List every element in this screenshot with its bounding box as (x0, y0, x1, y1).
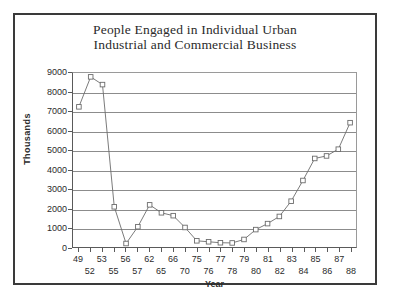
chart-title-line-1: People Engaged in Individual Urban (13, 22, 377, 37)
y-axis-tick-mark (68, 248, 72, 249)
x-axis-tick-label: 76 (197, 266, 221, 276)
data-point-marker (277, 214, 282, 219)
x-axis-tick-label: 81 (256, 254, 280, 264)
x-axis-tick-label: 57 (125, 266, 149, 276)
x-axis-tick-label: 86 (315, 266, 339, 276)
x-axis-tick-mark (173, 248, 174, 252)
chart-figure: People Engaged in Individual Urban Indus… (0, 0, 399, 305)
data-point-marker (159, 211, 164, 216)
x-axis-tick-mark (137, 248, 138, 252)
x-axis-tick-label: 78 (220, 266, 244, 276)
x-axis-tick-mark (90, 248, 91, 252)
x-axis-tick-mark (220, 248, 221, 252)
x-axis-tick-mark (161, 248, 162, 252)
x-axis-tick-mark (256, 248, 257, 252)
data-point-marker (242, 237, 247, 242)
x-axis-tick-label: 84 (292, 266, 316, 276)
data-point-marker (336, 147, 341, 152)
data-point-marker (218, 240, 223, 245)
x-axis-tick-label: 65 (149, 266, 173, 276)
y-axis-tick-label: 4000 (27, 165, 67, 175)
data-point-marker (301, 178, 306, 183)
x-axis-tick-label: 75 (185, 254, 209, 264)
y-axis-tick-label: 2000 (27, 204, 67, 214)
x-axis-tick-label: 85 (303, 254, 327, 264)
x-axis-label: Year (72, 279, 357, 289)
y-axis-tick-label: 9000 (27, 67, 67, 77)
data-point-marker (100, 82, 105, 87)
y-axis-tick-label: 8000 (27, 87, 67, 97)
x-axis-tick-mark (185, 248, 186, 252)
x-axis-tick-mark (102, 248, 103, 252)
y-axis-tick-label: 5000 (27, 145, 67, 155)
data-point-marker (147, 203, 152, 208)
x-axis-tick-label: 49 (66, 254, 90, 264)
data-point-marker (112, 205, 117, 210)
data-series-line (73, 73, 356, 247)
x-axis-tick-mark (149, 248, 150, 252)
x-axis-tick-mark (197, 248, 198, 252)
x-axis-tick-mark (114, 248, 115, 252)
x-axis-tick-mark (209, 248, 210, 252)
x-axis-tick-label: 83 (280, 254, 304, 264)
data-point-marker (253, 227, 258, 232)
y-axis-tick-label: 6000 (27, 126, 67, 136)
x-axis-tick-mark (292, 248, 293, 252)
x-axis-tick-label: 52 (78, 266, 102, 276)
data-point-marker (206, 240, 211, 245)
data-point-marker (183, 225, 188, 230)
x-axis-tick-label: 53 (90, 254, 114, 264)
x-axis-tick-mark (327, 248, 328, 252)
data-point-marker (230, 241, 235, 246)
x-axis-tick-mark (125, 248, 126, 252)
x-axis-tick-mark (280, 248, 281, 252)
x-axis-tick-mark (78, 248, 79, 252)
x-axis-tick-label: 79 (232, 254, 256, 264)
x-axis-tick-mark (351, 248, 352, 252)
x-axis-tick-label: 66 (161, 254, 185, 264)
x-axis-tick-label: 62 (137, 254, 161, 264)
x-axis-tick-label: 77 (208, 254, 232, 264)
data-point-marker (312, 156, 317, 161)
x-axis-tick-label: 55 (102, 266, 126, 276)
x-axis-tick-mark (315, 248, 316, 252)
series-polyline (79, 77, 350, 244)
data-point-marker (324, 154, 329, 159)
data-point-marker (348, 120, 353, 125)
x-axis-tick-label: 88 (339, 266, 363, 276)
y-axis-tick-label: 0 (27, 243, 67, 253)
data-point-marker (136, 224, 141, 229)
chart-title: People Engaged in Individual Urban Indus… (13, 22, 377, 52)
data-point-marker (195, 239, 200, 244)
x-axis-tick-label: 80 (244, 266, 268, 276)
y-axis-tick-label: 3000 (27, 184, 67, 194)
data-point-marker (265, 221, 270, 226)
plot-area (72, 72, 357, 248)
y-axis-tick-label: 7000 (27, 106, 67, 116)
data-point-marker (171, 213, 176, 218)
chart-title-line-2: Industrial and Commercial Business (13, 37, 377, 52)
x-axis-tick-mark (304, 248, 305, 252)
x-axis-tick-label: 70 (173, 266, 197, 276)
data-point-marker (77, 105, 82, 110)
x-axis-tick-label: 87 (327, 254, 351, 264)
data-point-marker (88, 75, 93, 80)
x-axis-tick-mark (244, 248, 245, 252)
x-axis-tick-mark (232, 248, 233, 252)
x-axis-tick-label: 56 (113, 254, 137, 264)
data-point-marker (289, 199, 294, 204)
x-axis-tick-label: 82 (268, 266, 292, 276)
x-axis-tick-mark (268, 248, 269, 252)
y-axis-tick-label: 1000 (27, 223, 67, 233)
data-point-marker (124, 241, 129, 246)
x-axis-tick-mark (339, 248, 340, 252)
